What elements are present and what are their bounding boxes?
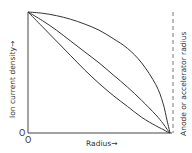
anode-radius-label: Anode or accelerator radius [179,32,188,136]
curve-flat-profile [28,12,170,133]
curves [28,12,170,133]
x-axis-label: Radius→ [86,139,117,148]
ion-current-density-chart: Ion current density→ Radius→ Anode or ac… [0,0,192,153]
origin-label-x: O [25,136,31,145]
y-axis-label: Ion current density→ [8,41,17,118]
